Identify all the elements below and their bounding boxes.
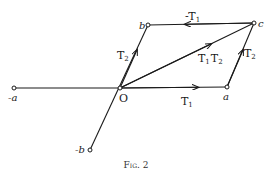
point-neg-b <box>88 148 92 152</box>
label-b: b <box>139 20 145 31</box>
figure-caption: Fig. 2 <box>124 160 149 170</box>
vector-diagram: -a O a b c -b T1 T2 T2 -T1 T1T2 Fig. 2 <box>0 0 273 173</box>
diagram-svg: -a O a b c -b T1 T2 T2 -T1 T1T2 Fig. 2 <box>0 0 273 173</box>
vector-T1T2-arrow <box>120 44 211 88</box>
vector-T2-right-arrow <box>227 50 243 87</box>
label-neg-T1: -T1 <box>185 10 200 24</box>
label-a: a <box>223 91 229 102</box>
vector-T1-arrow <box>120 87 198 88</box>
label-neg-b: -b <box>75 144 85 155</box>
point-O <box>118 86 122 90</box>
point-a <box>225 85 229 89</box>
label-T2-right: T2 <box>244 47 256 61</box>
label-T1: T1 <box>181 95 193 109</box>
label-c: c <box>258 18 264 29</box>
label-O: O <box>119 92 128 105</box>
point-b <box>146 23 150 27</box>
label-T1T2: T1T2 <box>198 52 223 66</box>
label-neg-a: -a <box>8 92 17 103</box>
point-c <box>252 21 256 25</box>
label-T2-left: T2 <box>117 49 129 63</box>
point-neg-a <box>12 86 16 90</box>
